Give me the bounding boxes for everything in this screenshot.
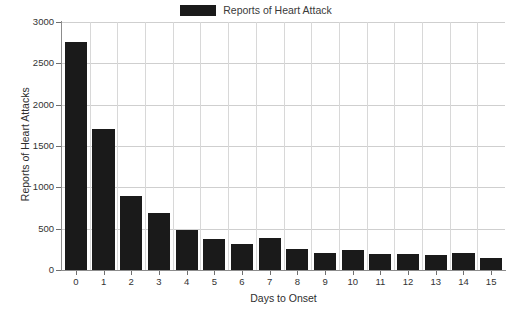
x-axis-tick-mark [353,271,354,275]
bar[interactable] [342,250,364,270]
gridline-vertical [90,22,91,270]
bar[interactable] [148,213,170,270]
x-axis-tick-label: 2 [129,277,134,287]
x-axis-tick-mark [380,271,381,275]
x-axis-tick-mark [491,271,492,275]
gridline-vertical [450,22,451,270]
bar[interactable] [452,253,474,270]
x-axis-tick-label: 11 [375,277,385,287]
x-axis-tick-mark [325,271,326,275]
gridline-vertical [117,22,118,270]
gridline-vertical [256,22,257,270]
x-axis-tick-mark [131,271,132,275]
bar[interactable] [397,254,419,270]
y-axis-tick-mark [56,146,61,147]
x-axis-tick-label: 9 [322,277,327,287]
bar[interactable] [176,230,198,271]
gridline-vertical [228,22,229,270]
gridline-vertical [339,22,340,270]
legend-label-reports-of-heart-attack: Reports of Heart Attack [223,5,332,16]
gridline-vertical [284,22,285,270]
bar[interactable] [314,253,336,270]
x-axis-tick-mark [408,271,409,275]
chart-legend: Reports of Heart Attack [0,2,512,18]
x-axis-tick-mark [270,271,271,275]
x-axis-tick-mark [297,271,298,275]
x-axis-tick-label: 14 [458,277,469,287]
gridline-vertical [173,22,174,270]
gridline-vertical [422,22,423,270]
gridline-vertical [477,22,478,270]
x-axis-tick-mark [436,271,437,275]
x-axis-tick-mark [463,271,464,275]
y-axis-tick-mark [56,105,61,106]
x-axis-tick-mark [187,271,188,275]
x-axis-tick-mark [242,271,243,275]
x-axis-tick-label: 0 [73,277,78,287]
y-axis-tick-mark [56,22,61,23]
y-axis-tick-mark [56,187,61,188]
gridline-vertical [200,22,201,270]
bar[interactable] [259,238,281,270]
gridline-vertical [311,22,312,270]
bar[interactable] [286,249,308,270]
y-axis-tick-mark [56,229,61,230]
x-axis-tick-mark [76,271,77,275]
bar[interactable] [203,239,225,270]
x-axis-tick-label: 10 [347,277,358,287]
legend-swatch-reports-of-heart-attack [180,5,216,16]
bar[interactable] [65,42,87,270]
x-axis-tick-label: 15 [486,277,497,287]
x-axis-tick-label: 13 [430,277,441,287]
x-axis-tick-label: 3 [156,277,161,287]
x-axis-tick-label: 8 [295,277,300,287]
x-axis-tick-label: 6 [239,277,244,287]
x-axis-tick-mark [159,271,160,275]
y-axis-tick-label: 3000 [0,17,54,27]
plot-area [62,22,505,270]
y-axis-tick-label: 0 [0,265,54,275]
x-axis-line [61,270,506,271]
x-axis-tick-mark [214,271,215,275]
x-axis-tick-label: 5 [212,277,217,287]
gridline-vertical [367,22,368,270]
bar[interactable] [231,244,253,270]
y-axis-title: Reports of Heart Attacks [20,49,31,239]
bar[interactable] [480,258,502,270]
bar[interactable] [92,129,114,270]
x-axis-tick-label: 4 [184,277,189,287]
y-axis-tick-mark [56,63,61,64]
y-axis-tick-mark [56,270,61,271]
x-axis-tick-label: 7 [267,277,272,287]
gridline-vertical [394,22,395,270]
bar[interactable] [120,196,142,270]
x-axis-tick-mark [104,271,105,275]
bar-chart: Reports of Heart Attack 0500100015002000… [0,0,512,312]
x-axis-title: Days to Onset [62,293,505,304]
bar[interactable] [425,255,447,270]
bar[interactable] [369,254,391,270]
gridline-vertical [145,22,146,270]
x-axis-tick-label: 12 [403,277,414,287]
x-axis-tick-label: 1 [101,277,106,287]
